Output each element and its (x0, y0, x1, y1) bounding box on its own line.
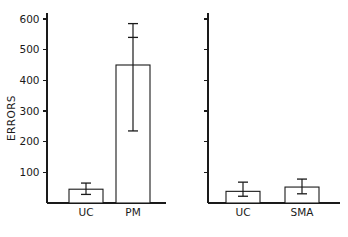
y-tick-label: 500 (19, 43, 39, 55)
y-tick-label: 100 (19, 166, 39, 178)
category-label-uc: UC (235, 206, 250, 218)
category-label-sma: SMA (291, 206, 315, 218)
y-tick-label: 200 (19, 135, 39, 147)
category-label-pm: PM (125, 206, 140, 218)
y-tick-label: 600 (19, 13, 39, 25)
category-label-uc: UC (78, 206, 93, 218)
y-axis-title: ERRORS (5, 95, 17, 141)
y-tick-label: 400 (19, 74, 39, 86)
figure-container: 100200300400500600UCPMUCSMAERRORS (0, 0, 348, 237)
errors-bar-chart: 100200300400500600UCPMUCSMAERRORS (0, 0, 348, 237)
caption-strip (0, 229, 348, 237)
y-tick-label: 300 (19, 105, 39, 117)
